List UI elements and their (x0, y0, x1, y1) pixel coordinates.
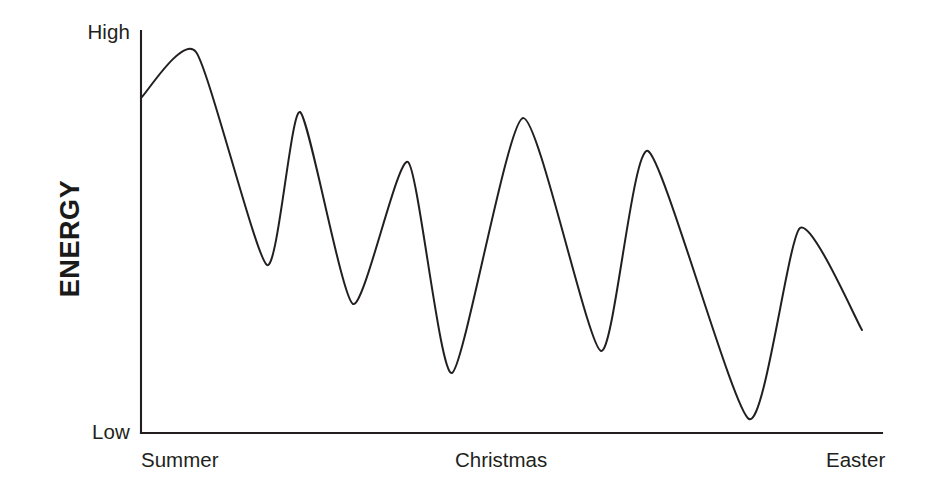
y-axis-low-label: Low (92, 422, 130, 443)
energy-chart-figure: High Low ENERGY Summer Christmas Easter (0, 0, 933, 500)
y-axis-high-label: High (87, 22, 130, 43)
y-axis-title: ENERGY (57, 139, 84, 339)
x-axis-label-summer: Summer (141, 450, 218, 471)
x-axis-label-easter: Easter (826, 450, 885, 471)
x-axis-label-christmas: Christmas (455, 450, 547, 471)
chart-canvas (0, 0, 933, 500)
energy-curve-path (141, 49, 862, 419)
